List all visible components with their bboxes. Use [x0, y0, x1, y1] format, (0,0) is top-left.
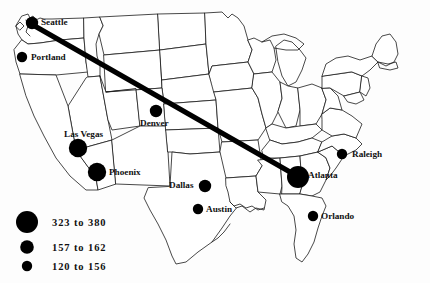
state-virginia — [322, 108, 362, 138]
legend: 323 to 380 157 to 162 120 to 156 — [16, 211, 107, 272]
city-label-orlando: Orlando — [321, 211, 355, 221]
city-marker-denver — [150, 105, 162, 117]
state-idaho — [84, 17, 103, 77]
state-wisconsin — [248, 38, 276, 74]
state-oklahoma — [166, 128, 220, 154]
city-label-atlanta: Atlanta — [308, 170, 338, 180]
city-marker-phoenix — [88, 163, 106, 181]
city-marker-las-vegas — [69, 139, 87, 157]
city-marker-raleigh — [337, 149, 347, 159]
city-label-seattle: Seattle — [41, 17, 68, 27]
city-label-dallas: Dallas — [169, 180, 194, 190]
city-label-denver: Denver — [140, 118, 169, 128]
city-label-austin: Austin — [206, 204, 232, 214]
state-new-mexico — [112, 126, 170, 186]
legend-symbol-medium — [20, 240, 34, 254]
state-iowa — [209, 62, 254, 92]
state-north-dakota — [158, 13, 206, 50]
city-label-portland: Portland — [31, 52, 66, 62]
state-montana — [99, 14, 160, 55]
state-new-jersey — [360, 76, 370, 96]
proportional-symbol-map-figure: Seattle Portland Las Vegas Phoenix Denve… — [0, 0, 430, 283]
city-marker-austin — [193, 204, 203, 214]
legend-label-large: 323 to 380 — [52, 217, 107, 228]
city-marker-portland — [17, 52, 27, 62]
state-indiana — [278, 82, 300, 128]
legend-label-small: 120 to 156 — [52, 261, 107, 272]
legend-symbol-large — [16, 211, 38, 233]
city-marker-dallas — [199, 180, 211, 192]
city-label-phoenix: Phoenix — [109, 167, 141, 177]
city-marker-atlanta — [287, 166, 309, 188]
city-label-las-vegas: Las Vegas — [64, 129, 103, 139]
city-marker-orlando — [308, 211, 318, 221]
city-label-raleigh: Raleigh — [352, 149, 382, 159]
map-canvas: Seattle Portland Las Vegas Phoenix Denve… — [0, 0, 430, 283]
legend-symbol-small — [22, 261, 32, 271]
city-marker-seattle — [26, 17, 38, 29]
legend-label-medium: 157 to 162 — [52, 242, 107, 253]
state-florida — [280, 194, 326, 262]
